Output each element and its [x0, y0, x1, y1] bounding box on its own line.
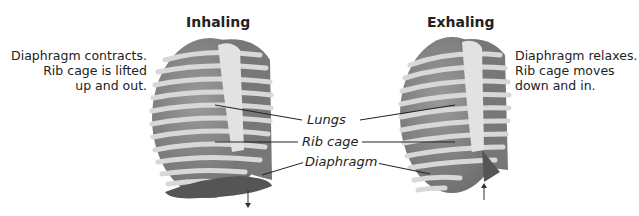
breathing-diagram — [0, 0, 639, 216]
arrow-up-icon — [481, 183, 487, 188]
diaphragm-label: Diaphragm — [303, 154, 379, 169]
exhaling-title: Exhaling — [427, 14, 495, 30]
inhaling-title: Inhaling — [186, 14, 250, 30]
inhaling-description: Diaphragm contracts. Rib cage is lifted … — [11, 48, 147, 93]
arrow-down-icon — [245, 203, 251, 208]
lungs-label: Lungs — [305, 112, 348, 127]
rib-cage-label: Rib cage — [300, 134, 360, 149]
exhaling-description: Diaphragm relaxes. Rib cage moves down a… — [515, 48, 637, 93]
inhaling-ribcage — [152, 38, 272, 208]
exhaling-ribcage — [400, 37, 509, 200]
